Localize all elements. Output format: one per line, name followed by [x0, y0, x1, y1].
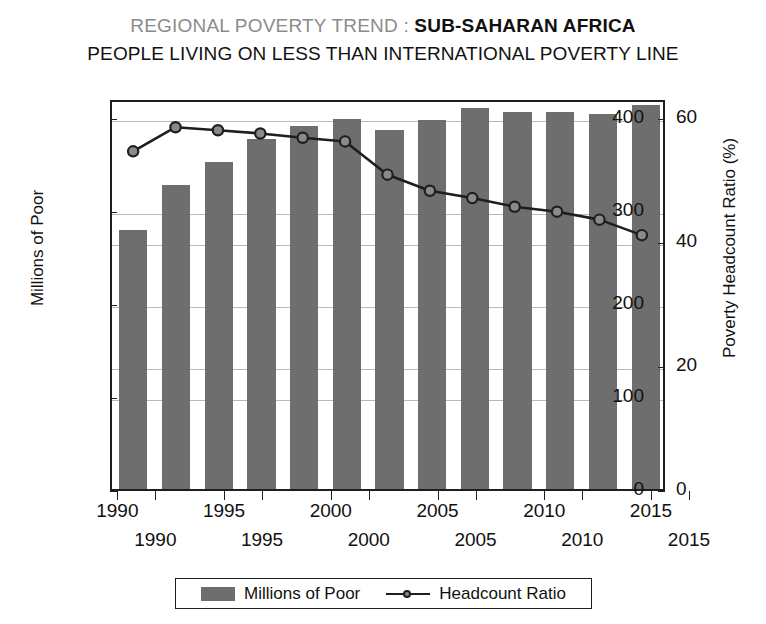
- line-path: [133, 127, 642, 235]
- x-axis-tick: [331, 491, 332, 500]
- y-axis-left-tick-label: 200: [612, 292, 644, 314]
- line-marker: [467, 193, 477, 203]
- line-series-headcount-ratio: [112, 102, 663, 490]
- poverty-trend-chart: REGIONAL POVERTY TREND : SUB-SAHARAN AFR…: [0, 0, 766, 624]
- y-axis-right-tick-label: 0: [676, 478, 687, 500]
- line-marker: [298, 133, 308, 143]
- y-axis-left-tick-label: 0: [633, 478, 644, 500]
- x-axis-tick-label-row1: 2000: [310, 500, 352, 522]
- line-marker: [255, 128, 265, 138]
- x-axis-tick-label-row1: 1990: [96, 500, 138, 522]
- chart-title-primary: REGIONAL POVERTY TREND : SUB-SAHARAN AFR…: [0, 14, 766, 38]
- line-marker: [170, 122, 180, 132]
- chart-title-region: SUB-SAHARAN AFRICA: [414, 15, 635, 36]
- y-axis-right-tick-label: 20: [676, 354, 697, 376]
- x-axis-tick: [651, 491, 652, 500]
- y-axis-right-tick-label: 40: [676, 230, 697, 252]
- x-axis-tick-label-row1: 2010: [523, 500, 565, 522]
- y-axis-left-tick: [110, 305, 117, 306]
- y-axis-right-title: Poverty Headcount Ratio (%): [720, 118, 740, 378]
- y-axis-left-tick-label: 300: [612, 199, 644, 221]
- x-axis-tick-label-row1: 2015: [630, 500, 672, 522]
- x-axis-tick: [689, 491, 690, 500]
- x-axis-tick-label-row2: 1995: [241, 529, 283, 551]
- chart-title-block: REGIONAL POVERTY TREND : SUB-SAHARAN AFR…: [0, 14, 766, 67]
- x-axis-tick-label-row2: 2000: [348, 529, 390, 551]
- x-axis-tick: [544, 491, 545, 500]
- legend-bar-swatch: [201, 587, 235, 601]
- line-marker: [425, 186, 435, 196]
- y-axis-right-tick: [658, 491, 665, 492]
- x-axis-tick: [155, 491, 156, 500]
- x-axis-tick-label-row2: 2005: [454, 529, 496, 551]
- line-marker: [382, 170, 392, 180]
- x-axis-tick: [438, 491, 439, 500]
- plot-area: [110, 100, 665, 491]
- x-axis-tick-label-row1: 2005: [416, 500, 458, 522]
- line-marker: [637, 230, 647, 240]
- chart-title-prefix: REGIONAL POVERTY TREND :: [130, 15, 414, 36]
- y-axis-left-title: Millions of Poor: [28, 118, 48, 378]
- y-axis-right-tick-label: 60: [676, 106, 697, 128]
- x-axis-tick-label-row2: 2010: [561, 529, 603, 551]
- x-axis-tick-label-row2: 1990: [134, 529, 176, 551]
- y-axis-left-tick-label: 100: [612, 385, 644, 407]
- legend-line-label: Headcount Ratio: [439, 584, 566, 604]
- x-axis-tick: [476, 491, 477, 500]
- line-marker: [128, 146, 138, 156]
- legend-bar-label: Millions of Poor: [244, 584, 360, 604]
- chart-subtitle: PEOPLE LIVING ON LESS THAN INTERNATIONAL…: [0, 41, 766, 67]
- line-marker: [213, 125, 223, 135]
- chart-legend: Millions of Poor Headcount Ratio: [175, 578, 592, 609]
- x-axis-tick: [369, 491, 370, 500]
- x-axis-tick-label-row2: 2015: [668, 529, 710, 551]
- line-marker: [510, 202, 520, 212]
- y-axis-right-tick: [658, 367, 665, 368]
- y-axis-left-tick-label: 400: [612, 106, 644, 128]
- x-axis-tick: [582, 491, 583, 500]
- x-axis-tick: [262, 491, 263, 500]
- y-axis-right-tick: [658, 243, 665, 244]
- y-axis-left-tick: [110, 398, 117, 399]
- line-marker: [552, 207, 562, 217]
- y-axis-left-tick: [110, 212, 117, 213]
- x-axis-tick-label-row1: 1995: [203, 500, 245, 522]
- y-axis-left-tick: [110, 491, 117, 492]
- legend-line-swatch: [386, 587, 430, 601]
- legend-line-marker-icon: [403, 590, 411, 598]
- line-marker: [340, 136, 350, 146]
- legend-item-line: Headcount Ratio: [386, 584, 566, 604]
- legend-item-bars: Millions of Poor: [201, 584, 360, 604]
- y-axis-left-tick: [110, 119, 117, 120]
- y-axis-right-tick: [658, 119, 665, 120]
- x-axis-tick: [117, 491, 118, 500]
- x-axis-tick: [224, 491, 225, 500]
- line-marker: [594, 214, 604, 224]
